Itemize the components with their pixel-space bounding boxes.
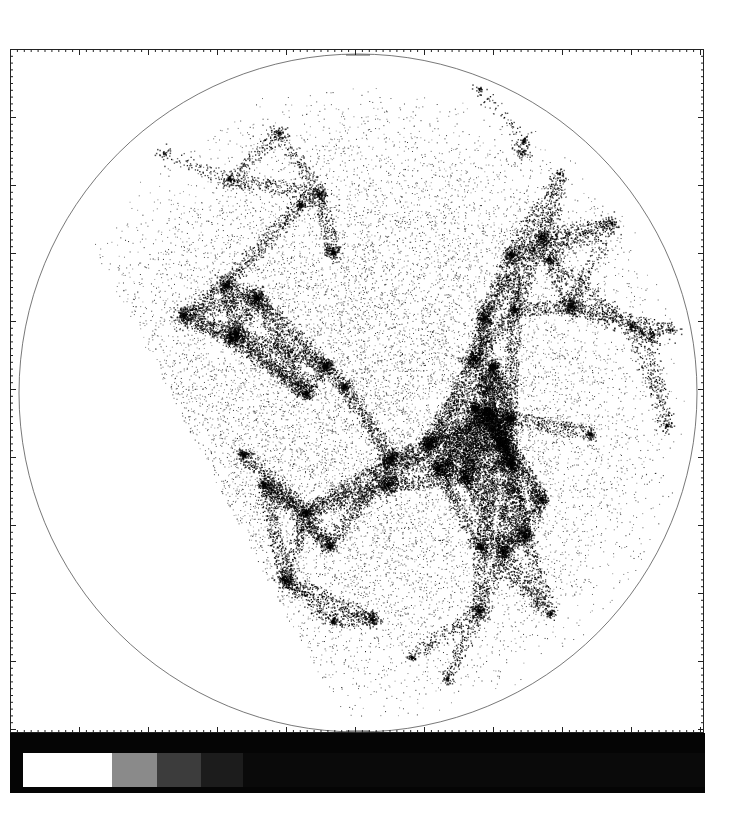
colorbar-segment [157,753,201,787]
colorbar-segment [243,753,705,787]
colorbar-scale [23,753,705,787]
map-frame [10,49,704,733]
top-caption-fragment [500,0,740,6]
colorbar-segment [23,753,112,787]
colorbar [10,733,705,793]
colorbar-segment [112,753,157,787]
density-map [11,50,705,734]
colorbar-segment [201,753,243,787]
